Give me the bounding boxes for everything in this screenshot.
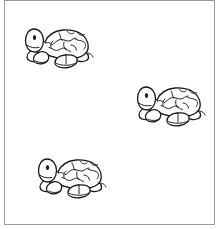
turtle-drawing-icon <box>19 19 95 69</box>
turtle-drawing-icon <box>32 149 108 199</box>
page-border <box>4 0 215 225</box>
turtle-drawing-icon <box>131 77 207 127</box>
turtle-figure-1 <box>19 19 95 69</box>
turtle-figure-3 <box>32 149 108 199</box>
image-canvas: Three identical black-and-white cartoon … <box>0 0 219 229</box>
turtle-figure-2 <box>131 77 207 127</box>
